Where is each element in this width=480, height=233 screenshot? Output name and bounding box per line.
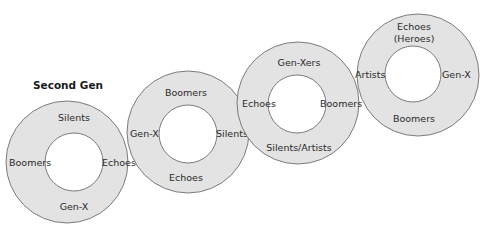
- ring-3-right-label: Boomers: [320, 98, 362, 109]
- generation-rings-diagram: Second Gen Silents Boomers Echoes Gen-X …: [0, 0, 480, 233]
- ring-2-bottom-label: Echoes: [169, 172, 203, 183]
- ring-1-right-label: Echoes: [102, 157, 136, 168]
- ring-3-top-label: Gen-Xers: [278, 57, 321, 68]
- ring-4-top-label-line1: Echoes: [397, 21, 431, 32]
- ring-3: Gen-Xers Echoes Boomers Silents/Artists: [237, 42, 362, 164]
- ring-4-top-label-line2: (Heroes): [394, 33, 435, 44]
- ring-4-bottom-label: Boomers: [393, 113, 435, 124]
- ring-1-left-label: Boomers: [9, 157, 51, 168]
- ring-2-hole: [159, 105, 217, 163]
- diagram-title: Second Gen: [33, 79, 103, 91]
- ring-1-hole: [45, 133, 103, 191]
- ring-4-hole: [385, 46, 441, 102]
- ring-2-left-label: Gen-X: [130, 128, 159, 139]
- ring-1-bottom-label: Gen-X: [60, 201, 89, 212]
- ring-2: Boomers Gen-X Silents Echoes: [127, 71, 249, 193]
- ring-2-top-label: Boomers: [165, 87, 207, 98]
- ring-4-right-label: Gen-X: [442, 69, 471, 80]
- ring-3-bottom-label: Silents/Artists: [266, 142, 331, 153]
- ring-1: Silents Boomers Echoes Gen-X: [6, 101, 136, 223]
- ring-3-hole: [268, 75, 326, 133]
- ring-4: Echoes (Heroes) Artists Gen-X Boomers: [355, 14, 479, 136]
- ring-3-left-label: Echoes: [242, 98, 276, 109]
- ring-1-top-label: Silents: [58, 112, 90, 123]
- ring-4-left-label: Artists: [355, 69, 385, 80]
